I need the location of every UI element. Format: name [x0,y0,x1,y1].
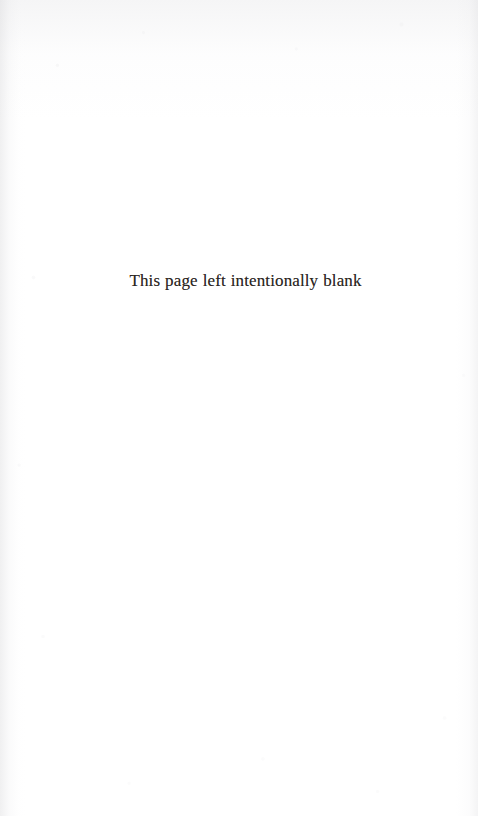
scan-paper-grain [0,0,478,816]
scan-edge-shading-right [456,0,478,816]
scan-edge-shading-left [0,0,26,816]
scan-edge-shading-top [0,0,478,120]
scanned-page: This page left intentionally blank [0,0,478,816]
intentionally-blank-notice: This page left intentionally blank [0,270,478,292]
